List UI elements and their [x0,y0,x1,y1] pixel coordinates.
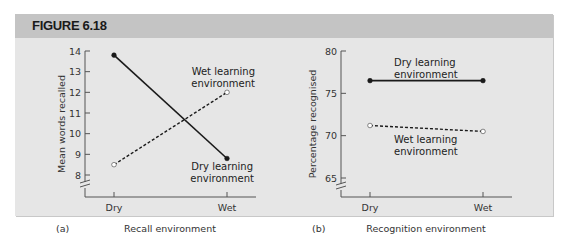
panel-b-wet-label-line1: Wet learning [394,134,457,145]
panel-a-ytick-label: 9 [75,149,81,160]
panel-a-data-point [225,90,230,95]
panel-a-wet-label-line1: Wet learning [192,66,255,77]
panel-b-ytick-label: 65 [325,173,337,184]
panel-b-xtick-wet: Wet [474,202,493,213]
panel-b-ylabel: Percentage recognised [307,70,318,179]
panel-b-xlabel: Recognition environment [366,223,486,234]
panel-b-y-axis: 65707580 Percentage recognised [307,46,346,198]
panel-b-data-point [368,123,373,128]
panel-b-dry-label-line2: environment [394,69,458,80]
panel-a-ylabel: Mean words recalled [56,75,67,173]
panel-b-series-line [370,126,483,132]
panel-b-ytick-label: 75 [325,88,337,99]
panel-b-data-point [481,129,486,134]
panel-a-dry-label-line1: Dry learning [191,161,253,172]
panel-b-data-point [481,78,486,83]
panel-a-ytick-label: 12 [69,87,81,98]
panel-b-label: (b) [312,223,325,234]
panel-a-label: (a) [56,223,69,234]
axis-break-icon [80,180,90,187]
panel-b-data-point [368,78,373,83]
panel-a-x-axis: Dry Wet Recall environment [85,192,256,234]
panel-b-x-axis: Dry Wet Recognition environment [341,192,512,234]
axis-break-icon [336,182,346,189]
panel-a-ytick-label: 8 [75,170,81,181]
panel-a-xlabel: Recall environment [124,223,216,234]
panel-a-ytick-label: 11 [69,108,81,119]
chart-canvas: 891011121314 Mean words recalled Dry Wet… [0,0,566,245]
panel-a-xtick-wet: Wet [218,202,237,213]
panel-b: 65707580 Percentage recognised Dry Wet R… [307,46,512,235]
panel-b-dry-label-line1: Dry learning [394,57,456,68]
panel-a-data-point [112,53,117,58]
panel-a-y-axis: 891011121314 Mean words recalled [56,46,90,198]
panel-a-xtick-dry: Dry [106,202,123,213]
panel-b-ytick-label: 70 [325,130,337,141]
panel-b-xtick-dry: Dry [362,202,379,213]
panel-a-series-line [114,92,227,164]
panel-b-wet-label-line2: environment [394,146,458,157]
panel-a-ytick-label: 13 [69,66,81,77]
panel-a-dry-label-line2: environment [190,173,254,184]
panel-a-wet-label-line2: environment [191,78,255,89]
panel-a-ytick-label: 14 [69,46,81,57]
panel-a-data-point [112,162,117,167]
panel-b-ytick-label: 80 [325,46,337,57]
panel-a: 891011121314 Mean words recalled Dry Wet… [56,46,256,235]
panel-a-ytick-label: 10 [69,128,81,139]
